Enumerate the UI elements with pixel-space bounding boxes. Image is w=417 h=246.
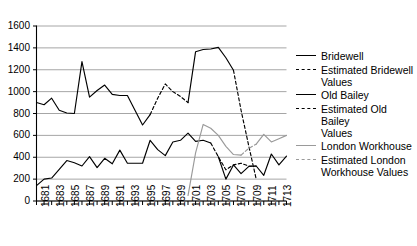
legend-item[interactable]: Bridewell <box>296 50 417 63</box>
y-axis-tick-label: 800 <box>0 109 30 119</box>
legend-item[interactable]: London Workhouse <box>296 140 417 153</box>
series-line-old-bailey-4 <box>37 133 211 186</box>
legend-item-label: Bridewell <box>321 50 364 62</box>
y-axis-tick-label: 0 <box>0 196 30 206</box>
legend-swatch-icon <box>296 89 316 101</box>
x-axis-tick-label: 1693 <box>131 185 141 207</box>
legend-item[interactable]: Estimated LondonWorkhouse Values <box>296 154 417 178</box>
legend-swatch-icon <box>296 50 316 62</box>
legend-item[interactable]: Estimated Old BaileyValues <box>296 103 417 139</box>
legend-swatch-icon <box>296 64 316 76</box>
series-line-estimated-bridewell-values-1 <box>150 84 188 115</box>
legend-item-label: Old Bailey <box>321 89 369 101</box>
legend-item[interactable]: Estimated BridewellValues <box>296 64 417 88</box>
series-line-bridewell-0 <box>37 62 151 125</box>
legend-item[interactable]: Old Bailey <box>296 89 417 102</box>
x-axis-tick-label: 1709 <box>253 185 263 207</box>
series-line-estimated-bridewell-values-3 <box>233 70 256 179</box>
x-axis-tick-label: 1699 <box>177 185 187 207</box>
y-axis-tick-label: 1200 <box>0 65 30 75</box>
x-axis-tick-label: 1683 <box>56 185 66 207</box>
x-axis-tick-label: 1713 <box>283 185 293 207</box>
series-line-bridewell-2 <box>188 47 233 102</box>
y-axis-tick-label: 400 <box>0 152 30 162</box>
y-axis-tick-label: 1000 <box>0 87 30 97</box>
x-axis-tick-label: 1685 <box>71 185 81 207</box>
x-axis-tick-label: 1703 <box>207 185 217 207</box>
x-axis-tick-label: 1689 <box>101 185 111 207</box>
y-axis-tick-label: 1600 <box>0 21 30 31</box>
x-axis-tick-label: 1691 <box>116 185 126 207</box>
x-axis-tick-label: 1687 <box>86 185 96 207</box>
legend-item-label: Estimated Old BaileyValues <box>321 103 417 139</box>
y-axis-tick-label: 1400 <box>0 43 30 53</box>
x-axis-tick-label: 1695 <box>147 185 157 207</box>
y-axis-tick-label: 600 <box>0 130 30 140</box>
chart-container: 02004006008001000120014001600 1681168316… <box>0 0 417 246</box>
legend-swatch-icon <box>296 103 316 115</box>
legend-item-label: London Workhouse <box>321 140 412 152</box>
x-axis-tick-label: 1697 <box>162 185 172 207</box>
x-axis-tick-label: 1701 <box>192 185 202 207</box>
x-axis-tick-label: 1681 <box>41 185 51 207</box>
y-axis-tick-label: 200 <box>0 174 30 184</box>
legend-swatch-icon <box>296 154 316 166</box>
legend-swatch-icon <box>296 140 316 152</box>
x-axis-tick-label: 1707 <box>237 185 247 207</box>
series-line-estimated-london-workhouse-values-8 <box>241 144 256 155</box>
legend-item-label: Estimated LondonWorkhouse Values <box>321 154 408 178</box>
x-axis-tick-label: 1705 <box>222 185 232 207</box>
chart-legend: BridewellEstimated BridewellValuesOld Ba… <box>296 50 417 179</box>
x-axis-tick-label: 1711 <box>268 185 278 207</box>
legend-item-label: Estimated BridewellValues <box>321 64 413 88</box>
